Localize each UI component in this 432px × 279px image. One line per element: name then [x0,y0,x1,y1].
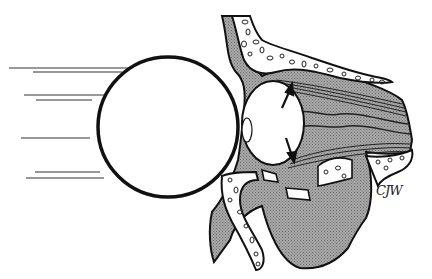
cornea-lens [242,118,252,142]
displaced-fragment-2 [286,188,310,200]
blowout-fracture-illustration [0,0,432,279]
orbital-floor-bone [366,150,412,186]
ball [98,57,238,197]
artist-signature: CJW [376,183,402,198]
